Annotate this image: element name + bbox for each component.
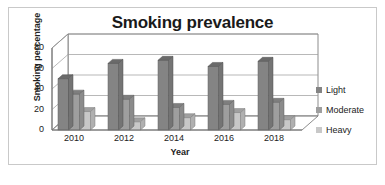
y-tick-label: 0 — [18, 124, 44, 134]
legend-swatch-icon — [316, 127, 322, 133]
legend-item[interactable]: Heavy — [316, 122, 364, 137]
x-tick-label: 2012 — [104, 133, 144, 143]
bar-side — [219, 62, 224, 130]
bar-side — [69, 75, 74, 130]
legend-label: Moderate — [326, 105, 364, 115]
bar — [208, 66, 219, 130]
legend-label: Light — [326, 85, 346, 95]
x-tick-label: 2010 — [54, 133, 94, 143]
bar-side — [280, 98, 285, 130]
legend-item[interactable]: Light — [316, 82, 364, 97]
chart-legend: LightModerateHeavy — [316, 82, 364, 142]
bar — [158, 60, 169, 130]
y-tick-label: 20 — [18, 104, 44, 114]
bar-side — [130, 95, 135, 130]
y-tick-label: 40 — [18, 83, 44, 93]
y-tick-label: 80 — [18, 42, 44, 52]
bar-side — [119, 59, 124, 130]
legend-item[interactable]: Moderate — [316, 102, 364, 117]
legend-label: Heavy — [326, 125, 352, 135]
bar-side — [80, 90, 85, 130]
x-tick-label: 2016 — [204, 133, 244, 143]
bar — [108, 63, 119, 130]
bar — [58, 79, 69, 130]
x-axis-label: Year — [52, 147, 308, 157]
bar — [258, 61, 269, 130]
x-tick-label: 2014 — [154, 133, 194, 143]
x-tick-label: 2018 — [254, 133, 294, 143]
bar-side — [230, 100, 235, 130]
y-tick-label: 60 — [18, 63, 44, 73]
legend-swatch-icon — [316, 107, 322, 113]
y-axis-tick-labels: 020406080 — [18, 48, 44, 130]
x-axis-tick-labels: 20102012201420162018 — [52, 133, 308, 147]
chart-screenshot: Smoking prevalence Smoking percentage 02… — [0, 0, 385, 185]
plot-area — [52, 48, 302, 130]
bar-side — [169, 56, 174, 130]
bar-side — [180, 103, 185, 130]
chart-title: Smoking prevalence — [0, 13, 385, 33]
bar-side — [269, 57, 274, 130]
bar-side — [91, 108, 96, 130]
legend-swatch-icon — [316, 87, 322, 93]
bar-side — [241, 109, 246, 130]
